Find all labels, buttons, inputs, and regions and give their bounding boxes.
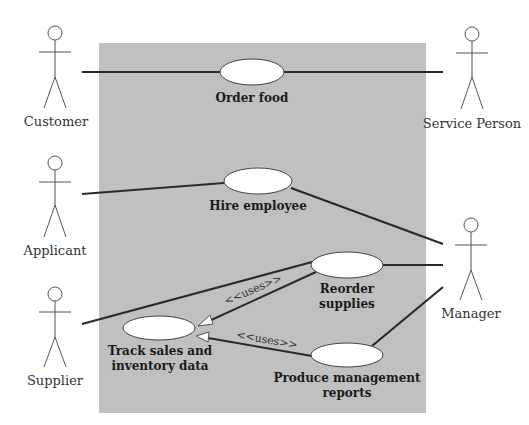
use-case-label-track-1: Track sales and bbox=[108, 344, 213, 358]
use-case-label-reorder-2: supplies bbox=[319, 297, 375, 311]
actor-label-supplier: Supplier bbox=[27, 373, 84, 388]
actor-label-service-person: Service Person bbox=[423, 116, 522, 131]
actor-applicant-icon[interactable] bbox=[39, 156, 71, 237]
use-case-order-food[interactable] bbox=[220, 59, 284, 85]
use-case-reorder-supplies[interactable] bbox=[311, 252, 383, 278]
use-case-produce-reports[interactable] bbox=[311, 343, 383, 367]
use-case-label-hire-employee: Hire employee bbox=[209, 199, 307, 213]
actor-supplier-icon[interactable] bbox=[39, 287, 71, 367]
use-case-label-reorder-1: Reorder bbox=[320, 282, 375, 296]
use-case-label-produce-2: reports bbox=[323, 386, 372, 400]
actor-label-customer: Customer bbox=[24, 114, 89, 129]
actor-manager-icon[interactable] bbox=[455, 218, 487, 300]
use-case-label-produce-1: Produce management bbox=[273, 371, 421, 385]
actor-customer-icon[interactable] bbox=[39, 26, 71, 108]
use-case-label-track-2: inventory data bbox=[111, 359, 208, 373]
use-case-track-sales[interactable] bbox=[123, 316, 195, 340]
use-case-hire-employee[interactable] bbox=[224, 168, 292, 194]
actor-label-applicant: Applicant bbox=[23, 243, 88, 258]
use-case-diagram: <<uses>> <<uses>> Order food Hire employ… bbox=[0, 0, 529, 425]
actor-label-manager: Manager bbox=[441, 306, 501, 321]
use-case-label-order-food: Order food bbox=[216, 91, 289, 105]
actor-service-person-icon[interactable] bbox=[456, 27, 488, 109]
